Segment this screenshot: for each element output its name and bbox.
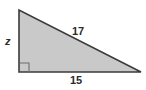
triangle-shape [19,10,141,72]
vertical-leg-label: z [5,36,11,47]
horizontal-leg-label: 15 [70,75,82,86]
triangle-figure: z 17 15 [0,0,146,90]
hypotenuse-label: 17 [72,26,84,37]
